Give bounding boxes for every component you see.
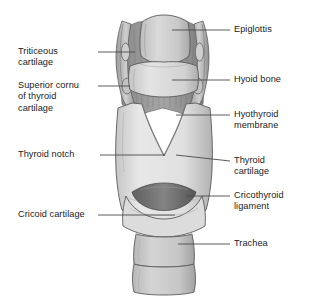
larynx-anterior-view-figure: Epiglottis Hyoid bone Hyothyroid membran… [0,0,327,299]
epiglottis-shape [140,15,190,64]
label-cricothyroid-ligament: Cricothyroid ligament [234,190,284,213]
label-superior-cornu: Superior cornu of thyroid cartilage [18,80,100,114]
label-hyothyroid-membrane: Hyothyroid membrane [234,109,278,132]
label-cricoid-cartilage: Cricoid cartilage [18,209,102,220]
trachea-shape [133,234,196,295]
label-thyroid-cartilage: Thyroid cartilage [234,155,269,178]
label-trachea: Trachea [234,238,268,249]
label-thyroid-notch: Thyroid notch [18,149,102,160]
label-hyoid-bone: Hyoid bone [234,74,281,85]
triticeous-cartilage-right-shape [195,43,203,61]
label-triticeous-cartilage: Triticeous cartilage [18,46,98,69]
hyoid-bone-shape [129,62,199,97]
label-epiglottis: Epiglottis [234,24,272,35]
